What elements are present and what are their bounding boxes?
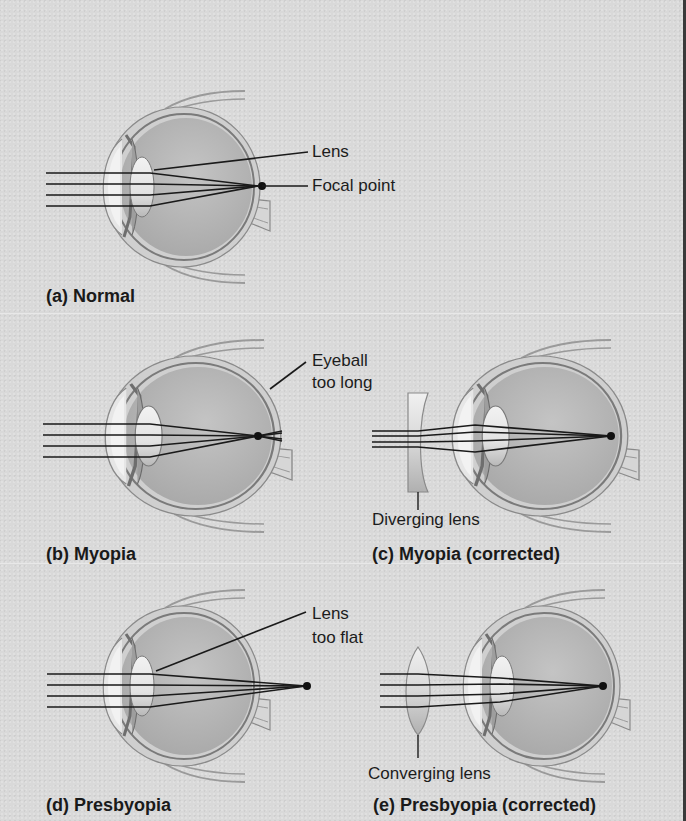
caption-c: (c) Myopia (corrected) [372, 544, 560, 565]
figure-page: Lens Focal point (a) Normal Eyeball too … [0, 0, 683, 821]
caption-b: (b) Myopia [46, 544, 136, 565]
converging-lens-icon [406, 647, 430, 735]
label-focal-point: Focal point [312, 176, 395, 196]
label-lens-d: Lens [312, 604, 349, 624]
label-converging-lens: Converging lens [368, 764, 491, 784]
caption-e: (e) Presbyopia (corrected) [373, 795, 596, 816]
eye-diagrams [0, 0, 683, 821]
label-diverging-lens: Diverging lens [372, 510, 480, 530]
caption-a: (a) Normal [46, 286, 135, 307]
label-eyeball: Eyeball [312, 351, 368, 371]
label-too-long: too long [312, 373, 373, 393]
label-too-flat: too flat [312, 628, 363, 648]
label-lens: Lens [312, 142, 349, 162]
caption-d: (d) Presbyopia [46, 795, 171, 816]
